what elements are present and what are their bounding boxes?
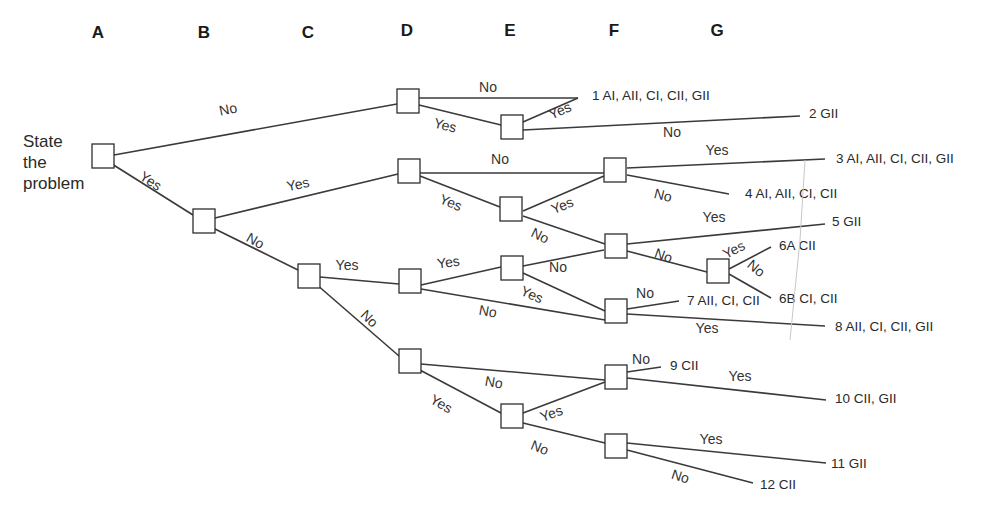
outcome-6b: 6B CI, CII bbox=[779, 291, 838, 306]
outcome-5: 5 GII bbox=[832, 214, 861, 229]
edge-label-no: No bbox=[653, 185, 674, 205]
edge-label-yes: Yes bbox=[437, 191, 464, 214]
edge-label-no: No bbox=[479, 79, 497, 95]
start-label-line: the bbox=[23, 153, 47, 172]
edge-label-yes: Yes bbox=[137, 168, 165, 194]
edge-label-no: No bbox=[670, 466, 692, 487]
decision-node-e3 bbox=[501, 256, 523, 280]
edge-yes bbox=[627, 443, 826, 463]
edge-label-no: No bbox=[244, 229, 268, 252]
edge-no bbox=[627, 301, 679, 309]
edge-label-yes: Yes bbox=[696, 320, 719, 336]
decision-node-b bbox=[193, 209, 215, 233]
edge-label-no: No bbox=[632, 351, 650, 367]
edge-label-no: No bbox=[484, 373, 505, 392]
edge-label-yes: Yes bbox=[285, 174, 311, 194]
column-headers: ABCDEFG bbox=[92, 21, 724, 42]
decision-node-f3 bbox=[605, 299, 627, 323]
column-header-f: F bbox=[609, 21, 619, 40]
column-header-c: C bbox=[302, 23, 314, 42]
edge-yes bbox=[627, 159, 825, 168]
decision-node-f1 bbox=[604, 158, 626, 182]
decision-node-d3 bbox=[399, 269, 421, 293]
edge-no bbox=[627, 367, 661, 372]
decision-node-f2 bbox=[605, 234, 627, 258]
start-label-line: problem bbox=[23, 174, 84, 193]
start-label-line: State bbox=[23, 132, 63, 151]
edge-label-yes: Yes bbox=[428, 391, 456, 416]
outcome-9: 9 CII bbox=[670, 358, 699, 373]
edge-label-yes: Yes bbox=[703, 209, 726, 225]
outcome-8: 8 AII, CI, CII, GII bbox=[835, 319, 933, 334]
edge-label-no: No bbox=[478, 302, 499, 321]
decision-node-a bbox=[92, 144, 114, 168]
edge-label-yes: Yes bbox=[720, 237, 748, 262]
edge-no bbox=[627, 450, 753, 483]
edge-label-no: No bbox=[549, 259, 567, 275]
edge-label-yes: Yes bbox=[336, 257, 359, 273]
decision-node-f4 bbox=[605, 365, 627, 389]
decision-node-e1 bbox=[501, 115, 523, 139]
edge-no bbox=[421, 289, 605, 320]
edge-label-yes: Yes bbox=[549, 194, 576, 217]
outcome-11: 11 GII bbox=[831, 456, 867, 471]
edge-yes bbox=[523, 382, 605, 413]
edge-label-yes: Yes bbox=[436, 253, 461, 272]
edge-yes bbox=[627, 314, 825, 326]
decision-node-e4 bbox=[501, 404, 523, 428]
edge-label-no: No bbox=[529, 437, 552, 459]
outcome-3: 3 AI, AII, CI, CII, GII bbox=[836, 151, 954, 166]
outcome-6a: 6A CII bbox=[779, 238, 816, 253]
edge-label-no: No bbox=[663, 124, 681, 140]
edge-yes bbox=[419, 105, 501, 125]
decision-node-d2 bbox=[398, 159, 420, 183]
column-header-a: A bbox=[92, 23, 104, 42]
edge-label-yes: Yes bbox=[706, 142, 729, 158]
column-header-d: D bbox=[401, 21, 413, 40]
edge-yes bbox=[320, 277, 399, 284]
edge-label-no: No bbox=[491, 151, 509, 167]
edge-no bbox=[316, 284, 399, 356]
column-header-b: B bbox=[198, 23, 210, 42]
outcome-2: 2 GII bbox=[809, 106, 838, 121]
edge-label-no: No bbox=[218, 99, 239, 118]
edge-label-no: No bbox=[636, 285, 654, 301]
start-label: Statetheproblem bbox=[23, 132, 84, 193]
decision-node-f5 bbox=[605, 434, 627, 458]
edge-yes bbox=[627, 378, 826, 400]
outcome-1: 1 AI, AII, CI, CII, GII bbox=[592, 88, 710, 103]
decision-tree: ABCDEFG Statetheproblem NoYesNoYesYesNoY… bbox=[0, 0, 992, 510]
decision-node-e2 bbox=[500, 197, 522, 221]
outcome-7: 7 AII, CI, CII bbox=[687, 293, 760, 308]
decision-nodes bbox=[92, 89, 729, 458]
edge-no bbox=[627, 175, 729, 194]
decision-node-c bbox=[298, 264, 320, 288]
edge-label-yes: Yes bbox=[700, 431, 723, 447]
column-header-e: E bbox=[504, 21, 515, 40]
edge-label-no: No bbox=[529, 224, 552, 246]
column-header-g: G bbox=[710, 21, 723, 40]
outcome-12: 12 CII bbox=[760, 477, 796, 492]
edge-label-no: No bbox=[358, 306, 382, 330]
outcome-10: 10 CII, GII bbox=[835, 391, 897, 406]
decision-node-d1 bbox=[397, 89, 419, 113]
edge-no bbox=[114, 104, 397, 155]
edge-no bbox=[421, 364, 605, 380]
edge-label-yes: Yes bbox=[518, 282, 545, 306]
decision-node-d4 bbox=[399, 349, 421, 373]
decision-node-g1 bbox=[707, 259, 729, 283]
edge-no bbox=[523, 116, 800, 130]
outcome-4: 4 AI, AII, CI, CII bbox=[745, 186, 837, 201]
edge-label-yes: Yes bbox=[729, 368, 752, 384]
edge-label-yes: Yes bbox=[432, 115, 458, 136]
edge-yes bbox=[421, 267, 501, 285]
